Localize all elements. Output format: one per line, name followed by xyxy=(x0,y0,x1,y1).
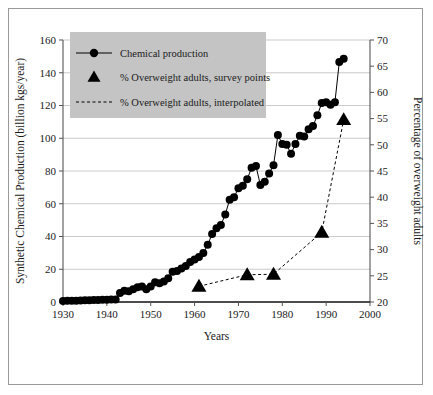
figure-root: 0204060801001201401602025303540455055606… xyxy=(0,0,433,395)
chart-canvas: 0204060801001201401602025303540455055606… xyxy=(0,0,433,395)
data-point-circle xyxy=(239,182,247,190)
x-tick-label: 1990 xyxy=(315,308,338,320)
legend-label: Chemical production xyxy=(120,48,209,59)
y2-axis-ticks: 2025303540455055606570 xyxy=(370,34,389,308)
data-point-triangle xyxy=(266,267,281,280)
data-point-circle xyxy=(243,175,251,183)
y2-tick-label: 45 xyxy=(377,165,389,177)
y2-tick-label: 25 xyxy=(377,270,389,282)
y2-tick-label: 20 xyxy=(377,296,389,308)
y-tick-label: 40 xyxy=(45,230,57,242)
data-point-circle xyxy=(340,55,348,63)
y2-axis-title: Percentage of overweight adults xyxy=(411,97,424,245)
y2-tick-label: 60 xyxy=(377,86,389,98)
data-point-circle xyxy=(252,162,260,170)
y-tick-label: 20 xyxy=(45,263,57,275)
x-tick-label: 1940 xyxy=(96,308,119,320)
data-point-circle xyxy=(287,150,295,158)
y-tick-label: 160 xyxy=(40,34,57,46)
x-tick-label: 1980 xyxy=(271,308,294,320)
data-point-circle xyxy=(217,221,225,229)
x-axis-title: Years xyxy=(204,330,230,342)
y2-tick-label: 30 xyxy=(377,243,389,255)
x-tick-label: 1950 xyxy=(140,308,163,320)
data-point-circle xyxy=(261,178,269,186)
x-tick-label: 1960 xyxy=(184,308,207,320)
legend-label: % Overweight adults, interpolated xyxy=(120,97,265,108)
legend: Chemical production% Overweight adults, … xyxy=(70,32,270,118)
data-point-circle xyxy=(291,140,299,148)
x-axis-ticks: 19301940195019601970198019902000 xyxy=(52,302,382,320)
y2-tick-label: 65 xyxy=(377,60,389,72)
y-tick-label: 60 xyxy=(45,198,57,210)
y2-tick-label: 40 xyxy=(377,191,389,203)
data-point-circle xyxy=(331,98,339,106)
data-point-circle xyxy=(274,131,282,139)
legend-marker-circle xyxy=(90,49,98,57)
data-point-triangle xyxy=(191,279,206,292)
data-point-circle xyxy=(313,111,321,119)
y2-tick-label: 50 xyxy=(377,139,389,151)
y-tick-label: 140 xyxy=(40,67,57,79)
y2-tick-label: 55 xyxy=(377,112,389,124)
y-tick-label: 0 xyxy=(51,296,57,308)
data-point-circle xyxy=(221,210,229,218)
y2-tick-label: 35 xyxy=(377,217,389,229)
data-point-circle xyxy=(283,141,291,149)
series-overweight-interpolated xyxy=(199,120,344,287)
data-point-circle xyxy=(204,241,212,249)
data-point-triangle xyxy=(336,112,351,125)
legend-label: % Overweight adults, survey points xyxy=(120,72,270,83)
y-tick-label: 120 xyxy=(40,99,57,111)
y-axis-title: Synthetic Chemical Production (billion k… xyxy=(14,58,27,284)
data-point-circle xyxy=(199,249,207,257)
data-point-circle xyxy=(270,161,278,169)
data-point-triangle xyxy=(314,225,329,238)
y-tick-label: 80 xyxy=(45,165,57,177)
y-tick-label: 100 xyxy=(40,132,57,144)
data-point-circle xyxy=(164,274,172,282)
data-point-circle xyxy=(230,193,238,201)
x-tick-label: 1930 xyxy=(52,308,75,320)
data-point-circle xyxy=(265,169,273,177)
x-tick-label: 2000 xyxy=(359,308,382,320)
x-tick-label: 1970 xyxy=(227,308,250,320)
data-point-circle xyxy=(309,122,317,130)
y-axis-ticks: 020406080100120140160 xyxy=(40,34,64,308)
data-point-circle xyxy=(300,133,308,141)
y2-tick-label: 70 xyxy=(377,34,389,46)
